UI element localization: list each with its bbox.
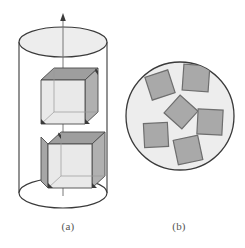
lower-cube-left-face xyxy=(41,137,48,188)
panel-b-caption: (b) xyxy=(159,220,199,232)
square-particle-5 xyxy=(143,122,168,147)
rotation-axis-arrow-icon xyxy=(60,13,66,21)
figure-illustration xyxy=(0,0,245,248)
panel-a-caption: (a) xyxy=(48,220,88,232)
panel-b-group xyxy=(126,62,234,170)
square-particle-6 xyxy=(173,135,203,165)
lower-cube-front-face xyxy=(48,144,92,188)
panel-a-group xyxy=(19,13,107,208)
square-particle-4 xyxy=(197,109,223,135)
lower-cube xyxy=(41,132,105,188)
figure-container: (a) (b) xyxy=(0,0,245,248)
upper-cube-front-face xyxy=(41,80,85,124)
upper-cube xyxy=(41,68,98,124)
